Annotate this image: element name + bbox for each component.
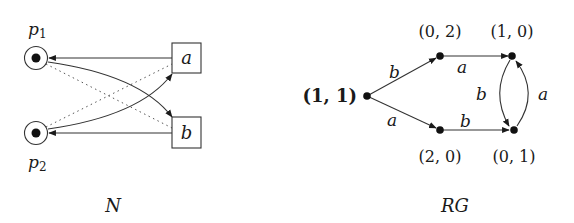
place-p1-label: p1 xyxy=(28,19,47,41)
node-0-2-label: (0, 2) xyxy=(418,22,461,41)
node-0-1-label: (0, 1) xyxy=(492,147,535,166)
place-p2 xyxy=(25,122,48,145)
edge-label-a: a xyxy=(538,84,548,104)
edge-label-b: b xyxy=(476,84,487,104)
reachability-graph: (1, 1) (0, 2) (1, 0) (2, 0) (0, 1) b a a… xyxy=(302,22,548,216)
edge-label-b: b xyxy=(389,62,400,82)
place-p1 xyxy=(25,47,48,70)
node-1-0-label: (1, 0) xyxy=(490,22,533,41)
edge-10-01 xyxy=(500,60,510,126)
transition-a: a xyxy=(172,43,201,73)
arc-p2-a xyxy=(48,74,172,129)
node-1-1 xyxy=(363,92,371,100)
token-icon xyxy=(32,129,41,138)
petri-net: p1 p2 a b N xyxy=(25,19,202,216)
edge-label-b: b xyxy=(460,111,471,131)
transition-a-label: a xyxy=(181,47,192,68)
arc-p1-b xyxy=(48,62,172,117)
edge-11-02 xyxy=(367,58,436,96)
edge-label-a: a xyxy=(457,57,467,77)
node-2-0-label: (2, 0) xyxy=(418,147,461,166)
node-0-1 xyxy=(510,126,518,134)
edge-01-10 xyxy=(516,61,528,126)
edge-label-a: a xyxy=(387,110,397,130)
edge-11-20 xyxy=(367,96,436,128)
caption-n: N xyxy=(104,195,122,216)
diagram-svg: p1 p2 a b N (1, 1) (0, 2) (1, 0) (2, 0) xyxy=(0,0,574,223)
node-2-0 xyxy=(436,126,444,134)
transition-b-label: b xyxy=(181,122,193,143)
token-icon xyxy=(32,54,41,63)
diagram-canvas: p1 p2 a b N (1, 1) (0, 2) (1, 0) (2, 0) xyxy=(0,0,574,223)
caption-rg: RG xyxy=(440,195,469,216)
node-1-1-label: (1, 1) xyxy=(302,85,357,106)
node-1-0 xyxy=(508,52,516,60)
node-0-2 xyxy=(436,52,444,60)
place-p2-label: p2 xyxy=(28,152,47,174)
transition-b: b xyxy=(172,117,201,148)
